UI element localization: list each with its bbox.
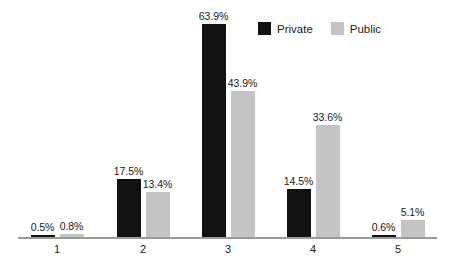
bar-public-1: [60, 234, 84, 237]
x-tick-label-2: 2: [131, 243, 155, 255]
x-tick-label-3: 3: [216, 243, 240, 255]
bar-public-4: [316, 125, 340, 237]
bar-chart: 0.5%0.8%17.5%13.4%63.9%43.9%14.5%33.6%0.…: [0, 0, 452, 265]
bar-value-label-public-4: 33.6%: [311, 111, 345, 123]
bar-public-5: [401, 220, 425, 237]
bar-value-label-public-1: 0.8%: [55, 220, 89, 232]
bar-value-label-public-2: 13.4%: [141, 178, 175, 190]
bar-value-label-private-5: 0.6%: [367, 221, 401, 233]
bar-value-label-public-3: 43.9%: [226, 77, 260, 89]
legend-label-private: Private: [277, 23, 313, 35]
chart-legend: Private Public: [258, 22, 381, 35]
x-tick-label-4: 4: [301, 243, 325, 255]
bar-public-3: [231, 91, 255, 237]
bar-value-label-private-4: 14.5%: [282, 175, 316, 187]
legend-swatch-public-icon: [331, 22, 344, 35]
plot-area: 0.5%0.8%17.5%13.4%63.9%43.9%14.5%33.6%0.…: [0, 0, 452, 265]
x-axis-line: [18, 237, 437, 239]
bar-private-1: [31, 235, 55, 237]
bar-private-4: [287, 189, 311, 237]
bar-value-label-private-2: 17.5%: [112, 165, 146, 177]
bar-private-2: [117, 179, 141, 237]
bar-private-3: [202, 24, 226, 237]
bar-value-label-public-5: 5.1%: [396, 206, 430, 218]
legend-entry-public: Public: [331, 22, 381, 35]
legend-label-public: Public: [350, 23, 381, 35]
bar-public-2: [146, 192, 170, 237]
bar-private-5: [372, 235, 396, 237]
legend-entry-private: Private: [258, 22, 313, 35]
x-tick-label-5: 5: [386, 243, 410, 255]
bar-value-label-private-3: 63.9%: [197, 10, 231, 22]
x-tick-label-1: 1: [45, 243, 69, 255]
legend-swatch-private-icon: [258, 22, 271, 35]
